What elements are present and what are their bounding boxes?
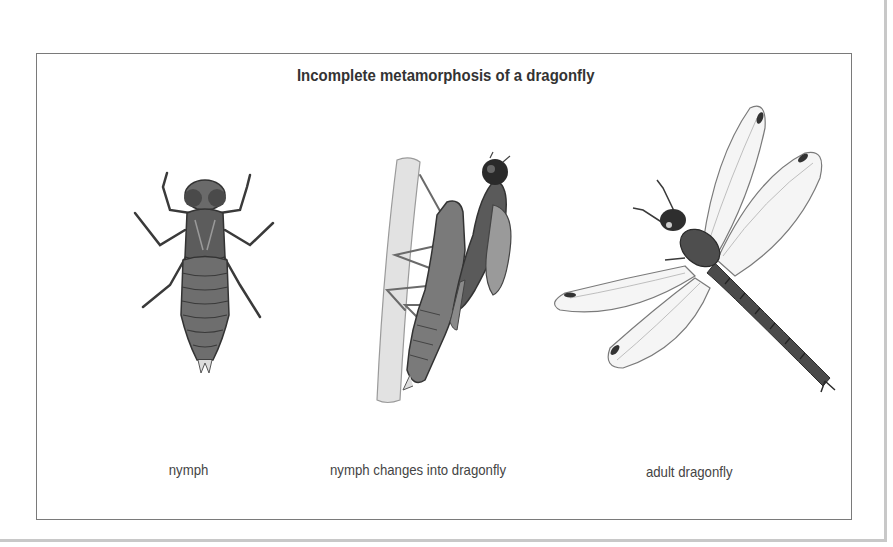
stage-caption-transition: nymph changes into dragonfly [330,461,506,478]
stage-caption-adult: adult dragonfly [646,463,733,480]
outer-border-right [884,0,887,542]
outer-border-bottom [0,539,887,542]
emerging-dragonfly-illustration [365,150,545,415]
adult-dragonfly-illustration [545,98,845,398]
stage-caption-nymph: nymph [169,461,209,478]
dragonfly-nymph-illustration [125,165,285,380]
diagram-title: Incomplete metamorphosis of a dragonfly [53,66,839,86]
